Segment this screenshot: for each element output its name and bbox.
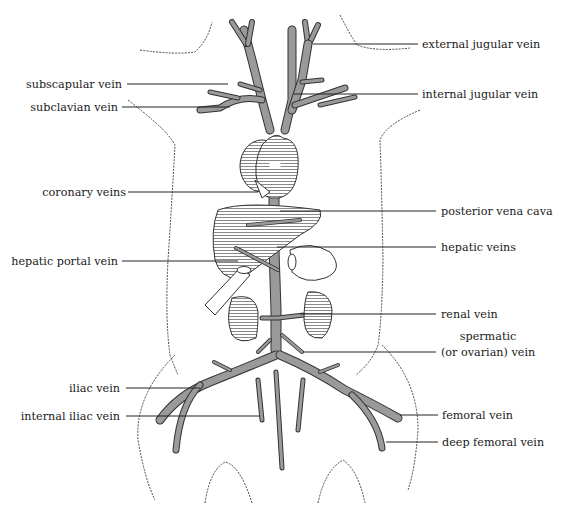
label-subclavian-vein: subclavian vein [30,101,118,114]
stomach [288,245,336,280]
label-femoral-vein: femoral vein [442,409,513,422]
vein-diagram: external jugular vein subscapular vein i… [0,0,565,509]
label-ovarian-vein: (or ovarian) vein [441,346,535,359]
label-internal-jugular-vein: internal jugular vein [422,88,538,101]
label-external-jugular-vein: external jugular vein [422,38,540,51]
label-iliac-vein: iliac vein [69,382,120,395]
label-posterior-vena-cava: posterior vena cava [441,205,553,218]
heart [240,135,298,198]
label-subscapular-vein: subscapular vein [26,78,122,91]
label-internal-iliac-vein: internal iliac vein [21,410,120,423]
label-hepatic-veins: hepatic veins [441,241,516,254]
label-renal-vein: renal vein [441,308,498,321]
label-coronary-veins: coronary veins [42,186,126,199]
label-hepatic-portal-vein: hepatic portal vein [11,255,118,268]
label-deep-femoral-vein: deep femoral vein [442,436,544,449]
label-spermatic: spermatic [460,330,517,343]
